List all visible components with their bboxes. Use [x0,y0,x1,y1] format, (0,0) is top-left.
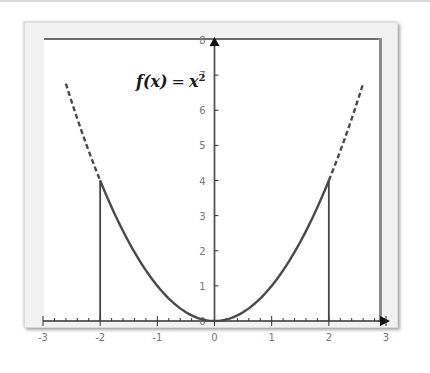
function-base: x [189,72,199,91]
y-tick-label: 8 [199,35,205,46]
x-tick-label: -1 [152,332,162,343]
x-tick-label: 2 [326,332,332,343]
chart-svg: -3-2-10123 012345678 [0,0,430,373]
y-axis-arrow-icon [210,37,220,46]
dashed-curve-segment [329,84,363,181]
function-name: f(x) [136,72,168,91]
y-tick-label: 1 [199,281,205,292]
equals-sign: = [172,72,185,91]
x-tick-label: 0 [211,332,217,343]
function-label: f(x)=x2 [136,72,205,91]
x-axis-arrow-icon [380,316,390,326]
y-tick-label: 4 [199,176,205,187]
x-tick-label: -3 [38,332,48,343]
x-tick-label: 1 [268,332,274,343]
dashed-curve-segment [66,84,100,181]
x-tick-label: 3 [383,332,389,343]
y-tick-label: 6 [199,105,205,116]
y-tick-label: 2 [199,246,205,257]
y-tick-label: 3 [199,211,205,222]
function-exponent: 2 [199,72,206,83]
y-tick-label: 5 [199,140,205,151]
x-tick-label: -2 [95,332,105,343]
